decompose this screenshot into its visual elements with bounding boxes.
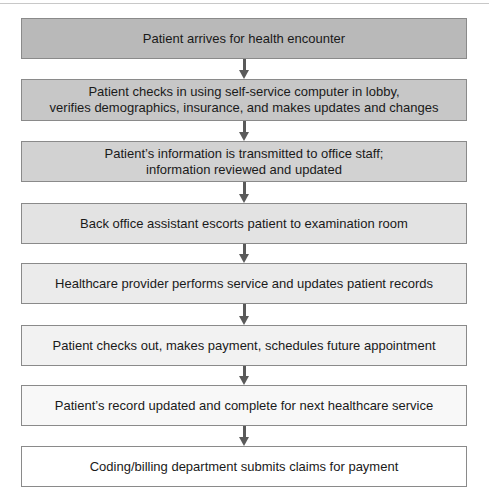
arrow-down-icon [239,426,250,446]
step-label: Patient checks out, makes payment, sched… [53,338,436,354]
step-label: Patient arrives for health encounter [143,31,345,47]
step-self-check-in: Patient checks in using self-service com… [21,79,467,121]
arrow-down-icon [239,244,250,263]
step-label: Coding/billing department submits claims… [90,459,399,475]
step-label: Healthcare provider performs service and… [55,276,433,292]
step-escort-to-exam-room: Back office assistant escorts patient to… [21,203,467,244]
arrow-down-icon [239,366,250,385]
step-label: Patient checks in using self-service com… [50,84,439,116]
step-label: Back office assistant escorts patient to… [80,216,408,232]
step-provider-service: Healthcare provider performs service and… [21,263,467,304]
flowchart: Patient arrives for health encounter Pat… [0,0,489,502]
step-record-updated: Patient’s record updated and complete fo… [21,385,467,426]
step-label: Patient’s record updated and complete fo… [55,398,433,414]
arrow-down-icon [239,182,250,203]
step-patient-arrives: Patient arrives for health encounter [21,18,467,59]
arrow-down-icon [239,121,250,141]
step-info-transmitted: Patient’s information is transmitted to … [21,141,467,182]
step-submit-claims: Coding/billing department submits claims… [21,446,467,487]
arrow-down-icon [239,304,250,325]
step-check-out: Patient checks out, makes payment, sched… [21,325,467,366]
step-label: Patient’s information is transmitted to … [105,146,384,178]
arrow-down-icon [239,59,250,79]
